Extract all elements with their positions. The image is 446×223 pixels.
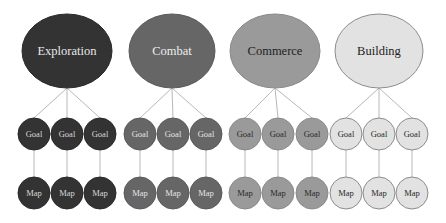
goal-label: Goal <box>165 129 182 139</box>
goal-label: Goal <box>304 129 321 139</box>
connector-building-goal-1 <box>346 88 379 118</box>
map-label: Map <box>237 188 253 198</box>
connector-exploration-goal-1 <box>34 88 67 118</box>
category-label: Building <box>357 44 402 58</box>
connector-combat-goal-3 <box>172 88 206 118</box>
map-label: Map <box>270 188 286 198</box>
goal-label: Goal <box>371 129 388 139</box>
connector-exploration-goal-3 <box>67 88 100 118</box>
connector-commerce-goal-3 <box>275 88 312 118</box>
category-commerce: CommerceGoalMapGoalMapGoalMap <box>229 14 328 209</box>
goal-label: Goal <box>92 129 109 139</box>
goal-label: Goal <box>270 129 287 139</box>
game-mechanics-diagram: ExplorationGoalMapGoalMapGoalMapCombatGo… <box>0 0 446 223</box>
nodes: ExplorationGoalMapGoalMapGoalMapCombatGo… <box>18 14 428 209</box>
map-label: Map <box>371 188 387 198</box>
category-label: Commerce <box>248 44 303 58</box>
goal-label: Goal <box>59 129 76 139</box>
connector-combat-goal-2 <box>172 88 173 118</box>
goal-label: Goal <box>198 129 215 139</box>
map-label: Map <box>404 188 420 198</box>
map-label: Map <box>338 188 354 198</box>
category-label: Combat <box>152 44 192 58</box>
map-label: Map <box>92 188 108 198</box>
map-label: Map <box>59 188 75 198</box>
map-label: Map <box>165 188 181 198</box>
connector-commerce-goal-2 <box>275 88 278 118</box>
map-label: Map <box>132 188 148 198</box>
map-label: Map <box>304 188 320 198</box>
map-label: Map <box>198 188 214 198</box>
goal-label: Goal <box>237 129 254 139</box>
connector-building-goal-3 <box>379 88 412 118</box>
goal-label: Goal <box>132 129 149 139</box>
category-label: Exploration <box>37 44 97 58</box>
connector-combat-goal-1 <box>140 88 172 118</box>
goal-label: Goal <box>404 129 421 139</box>
goal-label: Goal <box>338 129 355 139</box>
map-label: Map <box>26 188 42 198</box>
goal-label: Goal <box>26 129 43 139</box>
connector-commerce-goal-1 <box>245 88 275 118</box>
